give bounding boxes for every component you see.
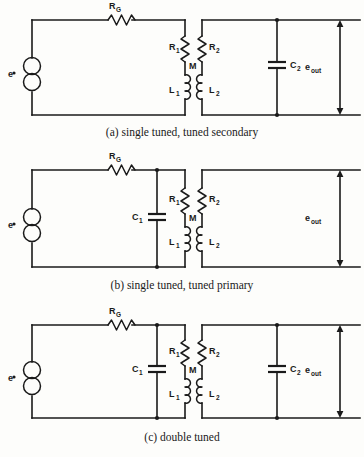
eout-sub: out <box>311 218 322 225</box>
l1-coil <box>185 379 190 403</box>
r1-sub: 1 <box>176 351 180 358</box>
r1-zigzag <box>181 188 189 214</box>
mutual-label: M <box>189 213 197 223</box>
r1-label: R <box>169 194 176 204</box>
mutual-label: M <box>189 365 197 375</box>
r2-zigzag <box>198 188 206 214</box>
l2-label: L <box>209 85 215 95</box>
caption-a: (a) single tuned, tuned secondary <box>0 126 364 138</box>
l2-sub: 2 <box>216 242 220 249</box>
eout-label: e <box>305 62 310 72</box>
eout-arrowhead-top <box>337 20 344 27</box>
c2-label: C <box>290 364 297 374</box>
c2-label: C <box>290 60 297 70</box>
r2-sub: 2 <box>216 351 220 358</box>
eout-sub: out <box>311 67 322 74</box>
source-label: e <box>8 373 13 383</box>
r2-sub: 2 <box>216 47 220 54</box>
eout-label: e <box>305 213 310 223</box>
eout-sub: out <box>311 370 322 377</box>
source-circle-bottom <box>24 378 41 395</box>
c1-junction-top <box>155 168 159 172</box>
rg-sub: G <box>116 156 121 163</box>
r1-label: R <box>169 346 176 356</box>
c1-label: C <box>132 364 139 374</box>
c1-sub: 1 <box>139 217 143 224</box>
l1-coil <box>185 75 190 99</box>
c1-label: C <box>132 212 139 222</box>
circuit-a: e R G R 1 L 1 M R 2 L 2 <box>0 0 364 150</box>
source-circle-top <box>24 58 41 75</box>
eout-arrowhead-bottom <box>337 260 344 267</box>
l1-label: L <box>169 237 175 247</box>
r1-sub: 1 <box>176 199 180 206</box>
rg-label: R <box>109 1 116 11</box>
eout-arrowhead-bottom <box>337 108 344 115</box>
l1-sub: 1 <box>176 394 180 401</box>
rg-label: R <box>109 151 116 161</box>
figure-sheet: e R G R 1 L 1 M R 2 L 2 <box>0 0 364 457</box>
l2-label: L <box>209 389 215 399</box>
r1-zigzag <box>181 340 189 366</box>
eout-arrowhead-top <box>337 325 344 332</box>
source-circle-bottom <box>24 225 41 242</box>
l2-coil <box>197 379 202 403</box>
circuit-c-schematic: e R G C 1 R 1 L 1 M <box>0 305 364 430</box>
source-label: e <box>8 220 13 230</box>
c2-sub: 2 <box>297 369 301 376</box>
c2-junction-top <box>275 18 279 22</box>
caption-c: (c) double tuned <box>0 431 364 443</box>
r2-zigzag <box>198 36 206 62</box>
r1-zigzag <box>181 36 189 62</box>
c2-junction-bottom <box>275 113 279 117</box>
rg-zigzag <box>108 165 135 175</box>
source-circle-bottom <box>24 74 41 91</box>
rg-sub: G <box>116 311 121 318</box>
eout-label: e <box>305 365 310 375</box>
l2-sub: 2 <box>216 394 220 401</box>
rg-sub: G <box>116 6 121 13</box>
eout-arrowhead-top <box>337 170 344 177</box>
l2-coil <box>197 227 202 251</box>
circuit-b-schematic: e R G C 1 R 1 L 1 M <box>0 150 364 278</box>
c2-junction-top <box>275 323 279 327</box>
r2-sub: 2 <box>216 199 220 206</box>
source-label: e <box>8 69 13 79</box>
l2-label: L <box>209 237 215 247</box>
source-circle-top <box>24 209 41 226</box>
r2-label: R <box>209 194 216 204</box>
r2-zigzag <box>198 340 206 366</box>
c2-junction-bottom <box>275 416 279 420</box>
circuit-b: e R G C 1 R 1 L 1 M <box>0 150 364 305</box>
r2-label: R <box>209 42 216 52</box>
l2-sub: 2 <box>216 90 220 97</box>
l2-coil <box>197 75 202 99</box>
rg-label: R <box>109 306 116 316</box>
l1-sub: 1 <box>176 90 180 97</box>
c1-junction-top <box>155 323 159 327</box>
r1-sub: 1 <box>176 47 180 54</box>
c1-sub: 1 <box>139 369 143 376</box>
rg-zigzag <box>108 320 135 330</box>
c1-junction-bottom <box>155 265 159 269</box>
c2-sub: 2 <box>297 65 301 72</box>
l1-sub: 1 <box>176 242 180 249</box>
circuit-c: e R G C 1 R 1 L 1 M <box>0 305 364 457</box>
eout-arrowhead-bottom <box>337 411 344 418</box>
caption-b: (b) single tuned, tuned primary <box>0 279 364 291</box>
l1-coil <box>185 227 190 251</box>
r1-label: R <box>169 42 176 52</box>
circuit-a-schematic: e R G R 1 L 1 M R 2 L 2 <box>0 0 364 125</box>
r2-label: R <box>209 346 216 356</box>
l1-label: L <box>169 389 175 399</box>
source-circle-top <box>24 362 41 379</box>
l1-label: L <box>169 85 175 95</box>
c1-junction-bottom <box>155 416 159 420</box>
mutual-label: M <box>189 61 197 71</box>
rg-zigzag <box>108 15 135 25</box>
